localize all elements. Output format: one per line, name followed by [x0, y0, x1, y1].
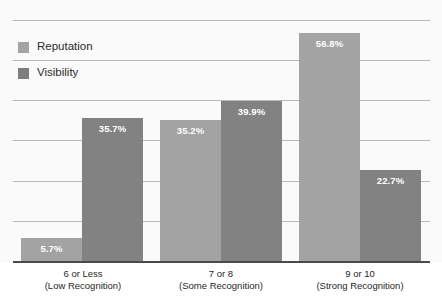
gridline-60 [13, 20, 430, 21]
x-axis-tick-line2: (Strong Recognition) [285, 280, 435, 292]
bar-reputation-7-or-8[interactable]: 35.2% [160, 120, 221, 261]
bar-visibility-9-or-10[interactable]: 22.7% [360, 170, 421, 261]
x-axis-tick-line1: 6 or Less [8, 268, 158, 280]
x-axis-tick-line1: 7 or 8 [146, 268, 296, 280]
legend-item-label: Visibility [37, 67, 78, 79]
bar-value-label: 56.8% [299, 38, 360, 49]
x-axis: 6 or Less (Low Recognition) 7 or 8 (Some… [0, 268, 442, 302]
legend-item-reputation[interactable]: Reputation [18, 37, 93, 57]
bar-visibility-7-or-8[interactable]: 39.9% [221, 101, 282, 261]
bar-value-label: 35.7% [82, 123, 143, 134]
x-axis-tick-line2: (Low Recognition) [8, 280, 158, 292]
legend-swatch-icon [18, 42, 29, 53]
chart-legend: Reputation Visibility [18, 37, 93, 89]
x-axis-tick-line2: (Some Recognition) [146, 280, 296, 292]
x-axis-tick-low-recognition: 6 or Less (Low Recognition) [8, 268, 158, 292]
bar-value-label: 39.9% [221, 106, 282, 117]
bar-reputation-6-or-less[interactable]: 5.7% [21, 238, 82, 261]
bar-reputation-9-or-10[interactable]: 56.8% [299, 33, 360, 261]
bar-value-label: 35.2% [160, 125, 221, 136]
x-axis-tick-some-recognition: 7 or 8 (Some Recognition) [146, 268, 296, 292]
axis-baseline [13, 261, 430, 263]
bar-visibility-6-or-less[interactable]: 35.7% [82, 118, 143, 261]
legend-item-label: Reputation [37, 41, 93, 53]
bar-value-label: 22.7% [360, 175, 421, 186]
bar-value-label: 5.7% [21, 243, 82, 254]
legend-swatch-icon [18, 68, 29, 79]
x-axis-tick-strong-recognition: 9 or 10 (Strong Recognition) [285, 268, 435, 292]
bar-chart: 5.7% 35.7% 35.2% 39.9% 56.8% 22.7% Reput… [0, 0, 442, 302]
x-axis-tick-line1: 9 or 10 [285, 268, 435, 280]
legend-item-visibility[interactable]: Visibility [18, 63, 93, 83]
